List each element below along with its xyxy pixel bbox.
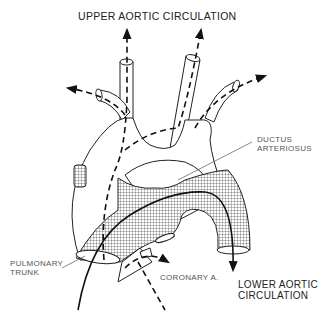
lower-aortic-label-line2: CIRCULATION [238, 290, 308, 301]
lower-aortic-label-line1: LOWER AORTIC [238, 279, 318, 290]
ductus-label-line2: ARTERIOSUS [257, 144, 312, 153]
pulmonary-leader [62, 256, 85, 268]
left-stub-vessel [74, 165, 86, 187]
coronary-label: CORONARY A. [160, 273, 219, 282]
pulmonary-label-line1: PULMONARY [10, 259, 64, 268]
upper-aortic-label: UPPER AORTIC CIRCULATION [78, 10, 237, 22]
ductus-label-line1: DUCTUS [257, 135, 292, 144]
fetal-circulation-diagram: UPPER AORTIC CIRCULATION DUCTUS ARTERIOS… [0, 0, 326, 319]
pulmonary-label-line2: TRUNK [10, 268, 39, 277]
flow-down-dashed [138, 262, 165, 310]
